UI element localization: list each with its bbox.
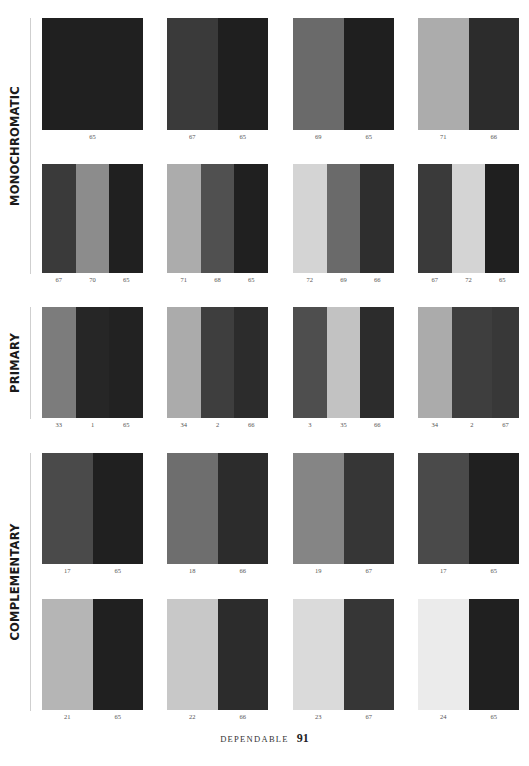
color-number: 33 [42, 421, 76, 428]
color-number: 66 [360, 276, 394, 283]
color-number: 17 [42, 567, 93, 574]
color-number: 69 [327, 276, 361, 283]
color-number: 21 [42, 713, 93, 720]
color-stripe [76, 307, 110, 418]
color-number: 67 [167, 133, 218, 140]
swatch-number-labels: 6765 [167, 133, 268, 140]
color-number: 72 [293, 276, 327, 283]
color-stripe [293, 599, 344, 710]
swatch-number-labels: 1967 [293, 567, 394, 574]
color-number: 65 [344, 133, 395, 140]
swatch-number-labels: 2165 [42, 713, 143, 720]
color-stripe [327, 307, 361, 418]
color-number: 72 [452, 276, 486, 283]
page-number: 91 [297, 731, 309, 745]
color-number: 3 [293, 421, 327, 428]
color-stripe [167, 18, 218, 130]
color-swatch [42, 307, 143, 418]
color-swatch [418, 307, 519, 418]
color-stripe [418, 307, 452, 418]
color-number: 65 [485, 276, 519, 283]
color-swatch [293, 307, 394, 418]
color-stripe [42, 599, 93, 710]
color-number: 34 [418, 421, 452, 428]
color-swatch [42, 599, 143, 710]
color-number: 66 [234, 421, 268, 428]
swatch-number-labels: 2266 [167, 713, 268, 720]
section-label-complementary: COMPLEMENTARY [4, 453, 26, 711]
swatch-number-labels: 1866 [167, 567, 268, 574]
page-footer: DEPENDABLE91 [0, 728, 529, 746]
color-stripe [109, 307, 143, 418]
section-label-monochromatic: MONOCHROMATIC [4, 18, 26, 274]
color-stripe [93, 599, 144, 710]
color-stripe [360, 307, 394, 418]
color-number: 19 [293, 567, 344, 574]
color-swatch [167, 18, 268, 130]
color-number: 65 [109, 421, 143, 428]
section-title: PRIMARY [8, 333, 22, 393]
color-stripe [201, 307, 235, 418]
swatch-number-labels: 677265 [418, 276, 519, 283]
color-number: 24 [418, 713, 469, 720]
color-number: 69 [293, 133, 344, 140]
color-number: 35 [327, 421, 361, 428]
color-number: 67 [42, 276, 76, 283]
color-number: 65 [42, 133, 143, 140]
color-stripe [418, 453, 469, 564]
color-stripe [293, 164, 327, 273]
color-number: 23 [293, 713, 344, 720]
color-number: 67 [344, 567, 395, 574]
color-swatch [42, 453, 143, 564]
color-stripe [485, 164, 519, 273]
color-stripe [469, 599, 520, 710]
section-label-primary: PRIMARY [4, 307, 26, 419]
color-number: 68 [201, 276, 235, 283]
section-divider-rule [30, 18, 31, 274]
color-number: 65 [218, 133, 269, 140]
section-divider-rule [30, 307, 31, 419]
color-stripe [234, 164, 268, 273]
color-stripe [93, 453, 144, 564]
color-number: 67 [418, 276, 452, 283]
color-stripe [167, 599, 218, 710]
color-number: 66 [469, 133, 520, 140]
color-stripe [360, 164, 394, 273]
color-stripe [452, 164, 486, 273]
color-swatch [167, 307, 268, 418]
color-stripe [218, 18, 269, 130]
color-stripe [167, 164, 201, 273]
color-swatch [293, 599, 394, 710]
color-number: 66 [360, 421, 394, 428]
color-stripe [344, 599, 395, 710]
color-swatch [418, 18, 519, 130]
color-number: 65 [469, 713, 520, 720]
swatch-number-labels: 34267 [418, 421, 519, 428]
color-stripe [469, 453, 520, 564]
color-stripe [418, 18, 469, 130]
color-number: 65 [234, 276, 268, 283]
color-number: 1 [76, 421, 110, 428]
color-swatch [418, 453, 519, 564]
color-stripe [167, 453, 218, 564]
color-stripe [218, 453, 269, 564]
color-stripe [344, 18, 395, 130]
color-stripe [234, 307, 268, 418]
color-swatch [293, 18, 394, 130]
color-swatch [42, 18, 143, 130]
color-swatch [167, 453, 268, 564]
swatch-number-labels: 34266 [167, 421, 268, 428]
color-swatch [42, 164, 143, 273]
swatch-number-labels: 2465 [418, 713, 519, 720]
color-swatch [167, 164, 268, 273]
color-number: 71 [167, 276, 201, 283]
color-stripe [42, 164, 76, 273]
color-stripe [469, 18, 520, 130]
swatch-number-labels: 677065 [42, 276, 143, 283]
color-stripe [492, 307, 519, 418]
section-divider-rule [30, 453, 31, 711]
color-number: 65 [469, 567, 520, 574]
color-stripe [42, 453, 93, 564]
color-stripe [418, 164, 452, 273]
swatch-number-labels: 33165 [42, 421, 143, 428]
